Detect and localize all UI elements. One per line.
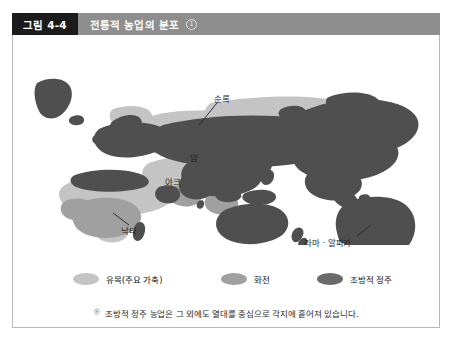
figure-number-badge: 그림 4-4 — [12, 13, 78, 35]
legend-item-slash-burn: 화전 — [221, 273, 317, 285]
figure-body: 순록 얌 야크 낙타 라마 · 알파카 유목(주요 가축) 화전 조방적 정주 … — [13, 35, 439, 326]
world-map-svg — [13, 35, 439, 245]
figure-title-bar: 전통적 농업의 분포 1 — [78, 13, 440, 35]
figure-header: 그림 4-4 전통적 농업의 분포 1 — [12, 13, 440, 35]
map-label-yak: 야크 — [165, 175, 181, 187]
world-map: 순록 얌 야크 낙타 라마 · 알파카 — [13, 35, 439, 245]
legend-swatch-extensive-settled — [317, 273, 343, 285]
legend-swatch-slash-burn — [221, 273, 247, 285]
figure-footnote: ※ 조방적 정주 농업은 그 외에도 열대를 중심으로 각지에 흩어져 있습니다… — [13, 307, 439, 319]
legend-swatch-nomadic — [73, 273, 99, 285]
figure-title-superscript: 1 — [186, 19, 197, 30]
legend-label-nomadic: 유목(주요 가축) — [106, 273, 162, 285]
legend-item-extensive-settled: 조방적 정주 — [317, 273, 392, 285]
footnote-text: 조방적 정주 농업은 그 외에도 열대를 중심으로 각지에 흩어져 있습니다. — [105, 307, 358, 319]
map-legend: 유목(주요 가축) 화전 조방적 정주 — [13, 273, 439, 285]
legend-label-extensive-settled: 조방적 정주 — [350, 273, 392, 285]
map-label-llama-alpaca: 라마 · 알파카 — [304, 236, 351, 248]
footnote-marker-icon: ※ — [94, 309, 101, 317]
map-label-camel: 낙타 — [121, 224, 137, 236]
figure-card: 그림 4-4 전통적 농업의 분포 1 — [12, 14, 440, 328]
figure-title: 전통적 농업의 분포 — [90, 17, 179, 32]
legend-item-nomadic: 유목(주요 가축) — [73, 273, 221, 285]
map-label-reindeer: 순록 — [214, 92, 230, 104]
map-label-yam: 얌 — [190, 151, 198, 163]
legend-label-slash-burn: 화전 — [254, 273, 270, 285]
